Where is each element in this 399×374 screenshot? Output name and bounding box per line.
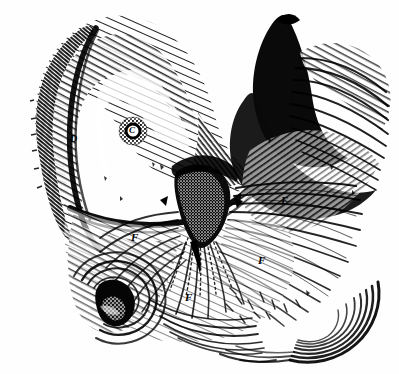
- label-f-right: F: [258, 255, 265, 266]
- label-d: D: [70, 134, 77, 144]
- label-c: C: [129, 126, 135, 135]
- engraving-plate: C D E F F F: [0, 0, 399, 374]
- label-f-left: F: [131, 232, 138, 243]
- label-e: E: [281, 195, 288, 206]
- engraving-artwork: [0, 0, 399, 374]
- label-f-center: F: [185, 292, 192, 303]
